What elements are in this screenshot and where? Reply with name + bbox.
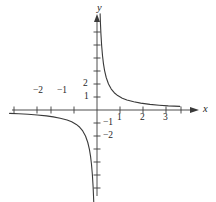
- y-tick-label-2: 2: [83, 79, 88, 89]
- y-tick-label-1: 1: [84, 92, 89, 102]
- curve-group: [10, 14, 180, 202]
- x-tick-label-minus1: −1: [57, 86, 67, 96]
- hyperbola-right-branch: [100, 14, 180, 107]
- graph-figure: −2 −1 1 2 3 2 1 −1 −2 y x: [0, 0, 216, 202]
- y-tick-label-minus1: −1: [103, 118, 113, 128]
- x-axis-arrowhead: [190, 107, 199, 113]
- y-axis-label: y: [97, 3, 102, 14]
- x-tick-label-2: 2: [140, 113, 145, 123]
- y-tick-label-minus2: −2: [103, 131, 113, 141]
- hyperbola-left-branch: [10, 113, 94, 202]
- x-tick-label-1: 1: [117, 113, 122, 123]
- x-axis-label: x: [203, 104, 208, 115]
- y-axis-arrowhead: [94, 14, 100, 22]
- x-tick-label-3: 3: [163, 113, 168, 123]
- x-tick-label-minus2: −2: [33, 86, 43, 96]
- plot-canvas: [0, 0, 216, 202]
- axes-group: [12, 14, 199, 196]
